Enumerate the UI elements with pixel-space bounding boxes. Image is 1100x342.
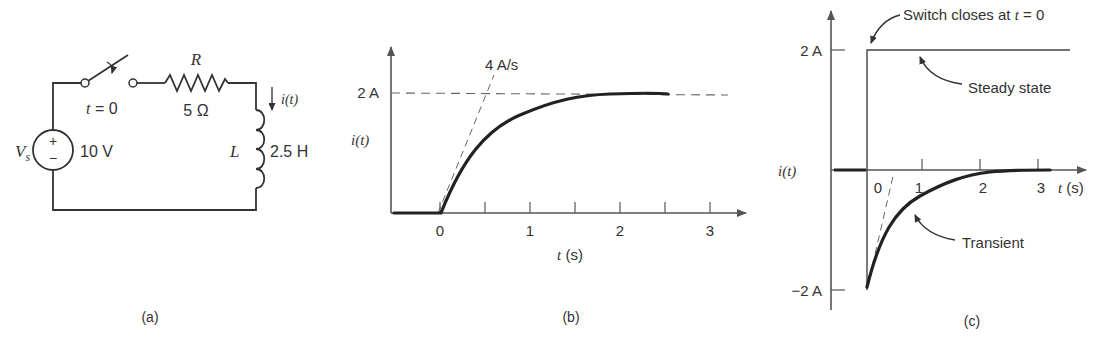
c-x-tick-label-3: 3: [1037, 179, 1045, 196]
inductor-value: 2.5 H: [270, 143, 308, 160]
c-transient-annotation: Transient: [962, 234, 1025, 251]
source-minus-sign: −: [49, 150, 57, 166]
b-x-ticks: [440, 202, 710, 213]
b-final-value-asymptote: [391, 93, 728, 95]
c-switch-annotation-arrow-icon: [871, 15, 900, 43]
c-transient-arrow-icon: [915, 215, 955, 240]
panel-a-circuit: + − Vs 10 V t = 0 R 5 Ω i(t) L 2.5 H (a): [15, 50, 308, 325]
c-x-tick-label-2: 2: [979, 179, 987, 196]
b-x-axis-label: t (s): [557, 246, 583, 263]
source-symbol: Vs: [15, 142, 30, 164]
b-slope-annotation: 4 A/s: [485, 56, 518, 73]
b-x-tick-label-1: 1: [526, 222, 534, 239]
b-x-tick-label-0: 0: [436, 222, 444, 239]
b-x-tick-label-3: 3: [706, 222, 714, 239]
resistor-icon: [165, 75, 228, 91]
c-x-tick-label-0: 0: [874, 179, 882, 196]
c-steady-state-arrow-icon: [920, 57, 962, 84]
current-label: i(t): [281, 92, 298, 108]
b-x-tick-label-2: 2: [616, 222, 624, 239]
wire-resistor-to-inductor: [228, 83, 256, 110]
source-plus-sign: +: [49, 133, 57, 149]
wire-left-bottom: [53, 170, 256, 210]
panel-a-caption: (a): [141, 309, 158, 325]
c-y-tick-label-2a: 2 A: [800, 42, 822, 59]
panel-c-chart: 2 A −2 A 0 1 2 3 t (s) i(t) Switch close…: [778, 6, 1086, 329]
c-x-ticks: [922, 159, 1038, 170]
c-transient-curve: [867, 170, 1050, 287]
wire-left-top: [53, 83, 81, 130]
b-y-axis-label: i(t): [351, 132, 369, 149]
inductor-symbol: L: [229, 142, 239, 161]
b-y-tick-label-2a: 2 A: [357, 84, 379, 101]
inductor-icon: [256, 110, 264, 188]
source-value: 10 V: [80, 143, 113, 160]
b-response-curve: [394, 93, 668, 213]
c-x-axis-label: t (s): [1058, 179, 1084, 196]
c-y-tick-label-neg2a: −2 A: [792, 282, 822, 299]
panel-b-chart: 0 1 2 3 2 A i(t) t (s) 4 A/s (b): [351, 47, 746, 325]
b-initial-slope-tangent: [438, 75, 494, 213]
panel-b-caption: (b): [562, 309, 579, 325]
figure-canvas: + − Vs 10 V t = 0 R 5 Ω i(t) L 2.5 H (a): [0, 0, 1100, 342]
switch-icon: [81, 55, 137, 87]
panel-c-caption: (c): [964, 313, 980, 329]
c-switch-annotation: Switch closes at t = 0: [903, 6, 1044, 23]
switch-time-label: t = 0: [86, 100, 118, 117]
c-steady-state-annotation: Steady state: [968, 79, 1051, 96]
c-y-axis-label: i(t): [778, 163, 796, 180]
resistor-symbol: R: [190, 50, 202, 69]
resistor-value: 5 Ω: [183, 102, 208, 119]
